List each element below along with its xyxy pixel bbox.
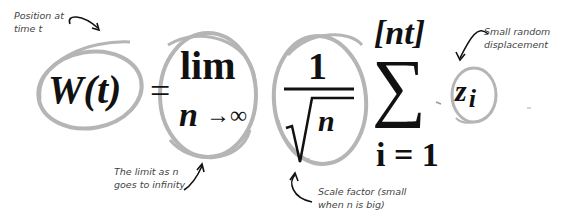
- note-position-line1: Position at: [14, 9, 64, 22]
- note-limit-line2: goes to infinity: [114, 178, 185, 191]
- note-scale-line2: when n is big): [318, 198, 406, 211]
- note-scale: Scale factor (small when n is big): [318, 185, 406, 211]
- arrow-position: [69, 17, 99, 30]
- sum-lower-limit: i = 1: [376, 136, 439, 174]
- term-z-base: z: [455, 74, 467, 107]
- note-displacement: Small random displacement: [484, 25, 550, 51]
- equals-sign: =: [150, 70, 170, 112]
- note-position: Position at time t: [14, 9, 64, 35]
- lhs-w-of-t: W(t): [48, 66, 121, 113]
- fraction-denominator-var: n: [318, 104, 335, 138]
- lim-subscript-var: n: [179, 96, 198, 134]
- note-displacement-line2: displacement: [484, 38, 550, 51]
- note-limit: The limit as n goes to infinity: [114, 165, 185, 191]
- sum-lower-text: i = 1: [376, 136, 439, 173]
- lim-subscript-arrow: →∞: [206, 102, 247, 129]
- note-limit-line1: The limit as n: [114, 165, 185, 178]
- fraction-numerator: 1: [308, 44, 327, 88]
- note-scale-line1: Scale factor (small: [318, 185, 406, 198]
- sum-symbol: ∑: [372, 48, 426, 124]
- term-z-sub: i: [469, 84, 476, 113]
- note-position-line2: time t: [14, 22, 64, 35]
- note-displacement-line1: Small random: [484, 25, 550, 38]
- arrow-scale: [290, 173, 312, 202]
- lim-word: lim: [180, 42, 236, 89]
- term-z: zi: [455, 74, 476, 108]
- arrow-limit: [184, 164, 204, 190]
